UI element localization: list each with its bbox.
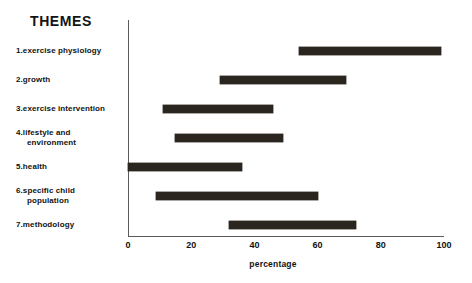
bar-row	[128, 186, 444, 206]
x-axis-label-text: percentage	[249, 259, 296, 269]
category-label-line: 6.specific child	[16, 186, 75, 195]
category-label-line: 5.health	[16, 162, 47, 171]
themes-percentage-range-chart: THEMES 1.exercise physiology2.growth3.ex…	[0, 0, 472, 283]
category-label: 6.specific childpopulation	[16, 186, 124, 206]
bar	[299, 47, 441, 55]
bar	[128, 163, 242, 171]
x-tick-label: 80	[376, 240, 386, 250]
bar-row	[128, 215, 444, 235]
x-axis-line	[128, 236, 444, 237]
category-label: 7.methodology	[16, 220, 124, 230]
category-label-line: 2.growth	[16, 75, 50, 84]
bar-row	[128, 99, 444, 119]
category-label-line: 3.exercise intervention	[16, 104, 105, 113]
bar-row	[128, 41, 444, 61]
category-label-line: 1.exercise physiology	[16, 46, 101, 55]
category-label: 3.exercise intervention	[16, 104, 124, 114]
category-label: 5.health	[16, 162, 124, 172]
x-tick-label: 60	[313, 240, 323, 250]
x-tick-label: 100	[436, 240, 451, 250]
bar-row	[128, 70, 444, 90]
bar-row	[128, 157, 444, 177]
plot-area	[128, 20, 444, 237]
bar	[175, 134, 282, 142]
x-axis-label: percentage	[0, 259, 472, 269]
chart-title: THEMES	[30, 13, 92, 29]
category-label: 2.growth	[16, 75, 124, 85]
category-label: 1.exercise physiology	[16, 46, 124, 56]
bar-row	[128, 128, 444, 148]
x-tick-label: 0	[125, 240, 130, 250]
bar	[163, 105, 274, 113]
category-label: 4.lifestyle andenvironment	[16, 128, 124, 148]
x-tick-label: 40	[249, 240, 259, 250]
x-tick-label: 20	[186, 240, 196, 250]
category-label-line: environment	[16, 138, 124, 148]
bar	[220, 76, 346, 84]
bar	[229, 221, 355, 229]
bar	[156, 192, 317, 200]
category-label-line: 4.lifestyle and	[16, 128, 70, 137]
category-label-line: population	[16, 196, 124, 206]
category-label-line: 7.methodology	[16, 220, 74, 229]
